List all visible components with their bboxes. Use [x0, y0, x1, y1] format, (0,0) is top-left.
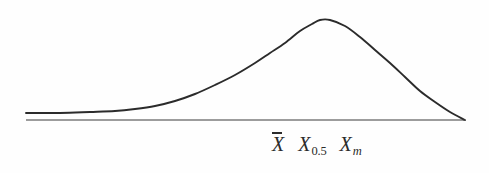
label-mean: X [272, 131, 284, 154]
label-mean-symbol: X [272, 134, 284, 154]
label-mode-symbol: X [339, 134, 351, 154]
overbar-accent [272, 132, 282, 134]
distribution-figure: X X0.5 Xm [0, 0, 489, 173]
label-mode: Xm [339, 134, 360, 154]
frequency-curve [26, 19, 465, 120]
label-median: X0.5 [298, 134, 325, 154]
label-mode-subscript: m [353, 145, 362, 158]
label-median-subscript: 0.5 [311, 145, 326, 158]
label-median-symbol: X [298, 134, 310, 154]
axis-label-group: X X0.5 Xm [272, 131, 361, 154]
distribution-plot [0, 0, 489, 173]
